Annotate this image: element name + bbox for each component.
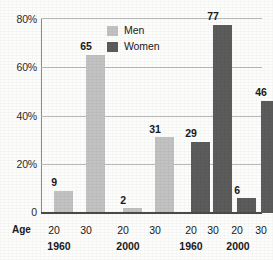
bar-value-men-1960-age30: 65 xyxy=(76,41,96,52)
x-tick-age-1960-20-left: 20 xyxy=(43,225,65,236)
bar-men-1960-age20 xyxy=(54,191,73,213)
legend: Men Women xyxy=(107,24,160,56)
legend-item-women: Women xyxy=(107,40,160,53)
bar-value-women-2000-age30: 46 xyxy=(251,87,271,98)
bar-value-women-2000-age20: 6 xyxy=(227,185,247,196)
x-group-label-women-2000: 2000 xyxy=(213,241,263,252)
gridline-80 xyxy=(41,18,262,19)
y-tick-label-60: 60% xyxy=(3,62,37,73)
bar-value-men-1960-age20: 9 xyxy=(44,177,64,188)
x-tick-age-2000-20-left: 20 xyxy=(112,225,134,236)
x-axis-line xyxy=(41,212,262,214)
x-tick-age-2000-20-right: 20 xyxy=(226,225,248,236)
y-tick-label-20: 20% xyxy=(3,159,37,170)
x-tick-age-1960-30-left: 30 xyxy=(75,225,97,236)
bar-men-2000-age30 xyxy=(155,137,174,213)
x-group-label-women-1960: 1960 xyxy=(166,241,216,252)
y-tick-label-0: 0 xyxy=(3,207,37,218)
y-tick-label-40: 40% xyxy=(3,111,37,122)
legend-swatch-men-icon xyxy=(107,26,118,36)
x-group-label-men-1960: 1960 xyxy=(34,241,84,252)
x-tick-age-1960-20-right: 20 xyxy=(180,225,202,236)
bar-value-women-1960-age20: 29 xyxy=(181,128,201,139)
legend-item-men: Men xyxy=(107,24,160,37)
bar-value-men-2000-age30: 31 xyxy=(145,124,165,135)
bar-men-1960-age30 xyxy=(86,55,105,213)
x-axis-label-age: Age xyxy=(12,225,31,235)
bar-value-men-2000-age20: 2 xyxy=(113,195,133,206)
y-tick-label-80: 80% xyxy=(3,14,37,25)
bar-chart: 80% 60% 40% 20% 0 9 65 2 31 29 77 6 46 M xyxy=(0,0,273,260)
x-tick-age-2000-30-right: 30 xyxy=(250,225,272,236)
bar-women-2000-age30 xyxy=(261,101,273,213)
legend-swatch-women-icon xyxy=(107,42,118,52)
x-tick-age-1960-30-right: 30 xyxy=(202,225,224,236)
bar-value-women-1960-age30: 77 xyxy=(203,11,223,22)
cropped-title-remnant xyxy=(22,0,172,5)
bar-women-1960-age20 xyxy=(191,142,210,213)
x-group-label-men-2000: 2000 xyxy=(103,241,153,252)
bar-women-2000-age20 xyxy=(237,198,256,213)
x-tick-age-2000-30-left: 30 xyxy=(144,225,166,236)
legend-label-women: Women xyxy=(124,40,160,53)
legend-label-men: Men xyxy=(124,24,144,37)
